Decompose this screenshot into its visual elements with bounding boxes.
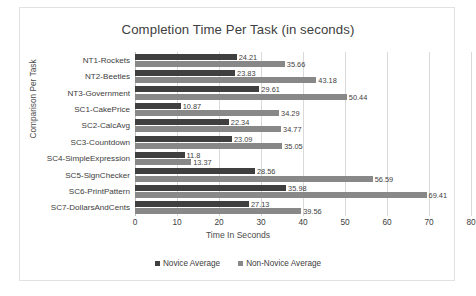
bar-row: 69.41 bbox=[135, 192, 471, 198]
bar-value-label: 29.61 bbox=[259, 85, 280, 94]
x-axis-title: Time In Seconds bbox=[20, 230, 456, 240]
bar-row: 10.87 bbox=[135, 103, 471, 109]
x-tick-label: 40 bbox=[298, 217, 307, 227]
bar-value-label: 50.44 bbox=[347, 92, 368, 101]
category-label: SC1-CakePrice bbox=[26, 101, 133, 117]
category-label: NT1-Rockets bbox=[26, 52, 133, 68]
bar-value-label: 43.18 bbox=[316, 76, 337, 85]
bar-novice[interactable] bbox=[135, 185, 286, 191]
bar-non-novice[interactable] bbox=[135, 94, 347, 100]
bar-row: 23.83 bbox=[135, 70, 471, 76]
bar-group: 23.0935.05 bbox=[135, 134, 471, 150]
legend-swatch-icon bbox=[238, 261, 243, 266]
chart-legend: Novice AverageNon-Novice Average bbox=[20, 259, 456, 268]
bar-non-novice[interactable] bbox=[135, 110, 279, 116]
bar-value-label: 13.37 bbox=[191, 158, 212, 167]
legend-label: Novice Average bbox=[163, 259, 220, 268]
gridline bbox=[471, 52, 472, 216]
category-label: SC5-SignChecker bbox=[26, 167, 133, 183]
legend-swatch-icon bbox=[155, 261, 160, 266]
bar-group: 11.813.37 bbox=[135, 150, 471, 166]
bar-value-label: 23.09 bbox=[232, 134, 253, 143]
bar-novice[interactable] bbox=[135, 70, 235, 76]
bar-row: 11.8 bbox=[135, 152, 471, 158]
bar-novice[interactable] bbox=[135, 119, 229, 125]
bar-row: 43.18 bbox=[135, 77, 471, 83]
bar-row: 35.98 bbox=[135, 185, 471, 191]
bar-group: 22.3434.77 bbox=[135, 118, 471, 134]
bar-row: 50.44 bbox=[135, 94, 471, 100]
chart-container: Completion Time Per Task (in seconds) Co… bbox=[19, 7, 455, 281]
bar-group: 27.1339.56 bbox=[135, 200, 471, 216]
x-tick-label: 50 bbox=[340, 217, 349, 227]
category-label: SC6-PrintPattern bbox=[26, 183, 133, 199]
bar-group: 24.2135.66 bbox=[135, 52, 471, 68]
bar-group: 10.8734.29 bbox=[135, 101, 471, 117]
bar-non-novice[interactable] bbox=[135, 143, 282, 149]
legend-item[interactable]: Novice Average bbox=[155, 259, 220, 268]
bar-value-label: 39.56 bbox=[301, 207, 322, 216]
bar-non-novice[interactable] bbox=[135, 77, 316, 83]
bar-value-label: 10.87 bbox=[181, 101, 202, 110]
bar-novice[interactable] bbox=[135, 168, 255, 174]
bar-value-label: 23.83 bbox=[235, 69, 256, 78]
category-label: SC3-Countdown bbox=[26, 134, 133, 150]
bar-series-groups: 24.2135.6623.8343.1829.6150.4410.8734.29… bbox=[135, 52, 471, 216]
bar-novice[interactable] bbox=[135, 136, 232, 142]
bar-novice[interactable] bbox=[135, 54, 237, 60]
bar-row: 35.05 bbox=[135, 143, 471, 149]
bar-value-label: 22.34 bbox=[229, 118, 250, 127]
bar-group: 28.5656.59 bbox=[135, 167, 471, 183]
legend-label: Non-Novice Average bbox=[246, 259, 321, 268]
bar-novice[interactable] bbox=[135, 201, 249, 207]
plot-area: 24.2135.6623.8343.1829.6150.4410.8734.29… bbox=[135, 52, 471, 216]
category-label: NT2-Beetles bbox=[26, 68, 133, 84]
bar-group: 23.8343.18 bbox=[135, 68, 471, 84]
x-tick-label: 30 bbox=[256, 217, 265, 227]
bar-non-novice[interactable] bbox=[135, 192, 427, 198]
category-label: NT3-Government bbox=[26, 85, 133, 101]
bar-novice[interactable] bbox=[135, 103, 181, 109]
bar-value-label: 56.59 bbox=[373, 174, 394, 183]
x-tick-label: 80 bbox=[466, 217, 475, 227]
bar-row: 23.09 bbox=[135, 136, 471, 142]
legend-item[interactable]: Non-Novice Average bbox=[238, 259, 321, 268]
bar-value-label: 69.41 bbox=[427, 191, 448, 200]
x-axis-tick-labels: 01020304050607080 bbox=[135, 217, 471, 231]
bar-row: 34.77 bbox=[135, 126, 471, 132]
bar-value-label: 34.77 bbox=[281, 125, 302, 134]
x-tick-label: 10 bbox=[172, 217, 181, 227]
x-tick-label: 0 bbox=[133, 217, 138, 227]
bar-group: 29.6150.44 bbox=[135, 85, 471, 101]
bar-row: 39.56 bbox=[135, 208, 471, 214]
bar-non-novice[interactable] bbox=[135, 61, 285, 67]
bar-row: 34.29 bbox=[135, 110, 471, 116]
category-axis-labels: NT1-RocketsNT2-BeetlesNT3-GovernmentSC1-… bbox=[26, 52, 133, 216]
category-label: SC2-CalcAvg bbox=[26, 118, 133, 134]
bar-value-label: 27.13 bbox=[249, 200, 270, 209]
bar-novice[interactable] bbox=[135, 86, 259, 92]
category-label: SC7-DollarsAndCents bbox=[26, 200, 133, 216]
bar-value-label: 35.98 bbox=[286, 183, 307, 192]
bar-row: 22.34 bbox=[135, 119, 471, 125]
bar-row: 28.56 bbox=[135, 168, 471, 174]
x-tick-label: 20 bbox=[214, 217, 223, 227]
bar-non-novice[interactable] bbox=[135, 208, 301, 214]
chart-title: Completion Time Per Task (in seconds) bbox=[20, 22, 456, 37]
bar-value-label: 28.56 bbox=[255, 167, 276, 176]
bar-group: 35.9869.41 bbox=[135, 183, 471, 199]
bar-row: 29.61 bbox=[135, 86, 471, 92]
x-tick-label: 70 bbox=[424, 217, 433, 227]
bar-non-novice[interactable] bbox=[135, 176, 373, 182]
bar-non-novice[interactable] bbox=[135, 126, 281, 132]
bar-non-novice[interactable] bbox=[135, 159, 191, 165]
bar-value-label: 35.05 bbox=[282, 141, 303, 150]
bar-value-label: 34.29 bbox=[279, 109, 300, 118]
bar-value-label: 35.66 bbox=[285, 59, 306, 68]
category-label: SC4-SimpleExpression bbox=[26, 150, 133, 166]
bar-row: 35.66 bbox=[135, 61, 471, 67]
bar-row: 56.59 bbox=[135, 176, 471, 182]
x-tick-label: 60 bbox=[382, 217, 391, 227]
bar-novice[interactable] bbox=[135, 152, 185, 158]
bar-value-label: 24.21 bbox=[237, 52, 258, 61]
